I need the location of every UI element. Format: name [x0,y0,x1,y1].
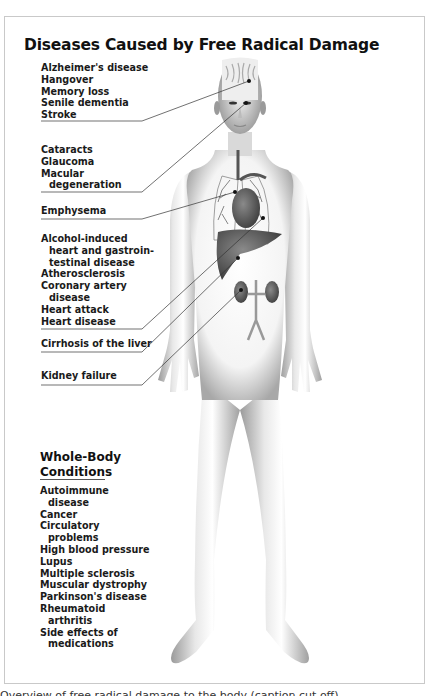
condition-item: Lupus [40,556,150,568]
group-heart: Alcohol-induced heart and gastroin- test… [41,233,154,327]
group-brain: Alzheimer's disease Hangover Memory loss… [41,62,148,121]
condition-item: Muscular dystrophy [40,579,150,591]
group-lungs: Emphysema [41,205,106,217]
condition-item: arthritis [40,615,150,627]
condition-item: heart and gastroin- [41,245,154,257]
condition-item: Hangover [41,74,148,86]
condition-item: Coronary artery [41,280,154,292]
condition-item: Memory loss [41,86,148,98]
condition-item: Heart disease [41,316,154,328]
condition-item: Atherosclerosis [41,268,154,280]
whole-body-heading-underline [40,479,105,480]
neck [228,132,252,156]
group-eyes: Cataracts Glaucoma Macular degeneration [41,144,122,191]
group-kidneys: Kidney failure [41,370,117,382]
head [214,58,266,135]
condition-item: Alcohol-induced [41,233,154,245]
torso [187,150,294,400]
condition-item: Macular [41,168,122,180]
condition-item: medications [40,638,150,650]
condition-item: Glaucoma [41,156,122,168]
condition-item: Multiple sclerosis [40,568,150,580]
condition-item: Circulatory [40,520,150,532]
whole-body-heading: Whole-Body Conditions [40,450,121,479]
whole-body-heading-line2: Conditions [40,465,121,480]
condition-item: Emphysema [41,205,106,217]
condition-item: Alzheimer's disease [41,62,148,74]
condition-item: Cirrhosis of the liver [41,338,152,350]
condition-item: Kidney failure [41,370,117,382]
heart [232,188,260,228]
condition-item: Rheumatoid [40,603,150,615]
condition-item: Heart attack [41,304,154,316]
group-liver: Cirrhosis of the liver [41,338,152,350]
condition-item: Parkinson's disease [40,591,150,603]
condition-item: Cancer [40,509,150,521]
condition-item: problems [40,532,150,544]
figure-title: Diseases Caused by Free Radical Damage [24,36,379,54]
condition-item: degeneration [41,179,122,191]
whole-body-list: Autoimmune disease Cancer Circulatory pr… [40,485,150,650]
legs [171,380,309,663]
condition-item: Stroke [41,109,148,121]
condition-item: Autoimmune [40,485,150,497]
condition-item: disease [40,497,150,509]
condition-item: Cataracts [41,144,122,156]
condition-item: Side effects of [40,627,150,639]
condition-item: disease [41,292,154,304]
condition-item: High blood pressure [40,544,150,556]
condition-item: testinal disease [41,257,154,269]
whole-body-heading-line1: Whole-Body [40,450,121,465]
figure-caption-clipped: Overview of free radical damage to the b… [0,689,339,696]
condition-item: Senile dementia [41,97,148,109]
